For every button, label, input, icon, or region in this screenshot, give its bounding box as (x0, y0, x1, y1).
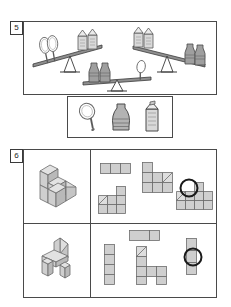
pan-item-carton-1 (134, 27, 143, 47)
pan-item-carton-1 (78, 30, 87, 50)
exercise-5-answer-tray (67, 96, 173, 138)
worksheet-page: 5 (0, 0, 231, 307)
scale-fulcrum (64, 56, 76, 72)
racket-icon (77, 101, 104, 133)
plan-view-shape (99, 187, 126, 214)
pan-item-racket-1 (135, 60, 146, 80)
plan-view-shape (143, 163, 173, 193)
tray-item-carton[interactable] (142, 100, 164, 134)
option-2c[interactable] (128, 246, 176, 286)
pan-item-vase-1 (185, 44, 196, 64)
plan-view-shape (130, 231, 160, 241)
plan-view-shape (137, 247, 167, 285)
option-2d[interactable] (182, 238, 212, 286)
plan-view-shape (177, 183, 213, 210)
pan-item-vase-2 (100, 63, 111, 82)
exercise-5-frame (23, 21, 217, 95)
exercise-number-6: 6 (10, 149, 23, 163)
option-2a[interactable] (104, 244, 116, 286)
option-1a[interactable] (100, 163, 134, 175)
plan-view-shape (101, 164, 131, 174)
tray-item-racket[interactable] (74, 102, 104, 132)
prompt-solid-1 (32, 161, 84, 213)
solid-3d-icon (40, 165, 76, 207)
plan-view-shape (105, 245, 115, 285)
balance-scale-bottom (81, 58, 159, 94)
grid-divider-horizontal (24, 223, 216, 224)
option-1b[interactable] (98, 186, 136, 216)
exercise-number-5: 5 (10, 21, 23, 35)
vase-icon (113, 104, 130, 130)
exercise-6-frame (23, 149, 217, 298)
milk-carton-icon (146, 101, 158, 131)
pan-item-carton-2 (144, 28, 153, 48)
option-2b[interactable] (129, 230, 163, 242)
pan-item-carton-2 (88, 29, 97, 49)
tray-item-vase[interactable] (110, 102, 132, 132)
option-1d[interactable] (174, 182, 216, 214)
pan-item-vase-2 (195, 45, 206, 65)
pan-item-vase-1 (89, 63, 100, 82)
plan-view-shape (187, 239, 197, 275)
prompt-solid-2 (34, 234, 84, 284)
solid-3d-icon (42, 238, 70, 278)
